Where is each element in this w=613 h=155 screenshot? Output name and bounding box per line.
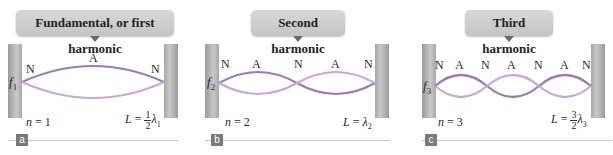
lambda-sub: 3	[583, 120, 587, 129]
n-label: n = 3	[438, 115, 463, 130]
standing-wave-2	[219, 68, 375, 98]
L-symbol: L	[125, 112, 132, 126]
n-value: = 3	[444, 115, 463, 129]
title-callout: Third harmonic	[465, 10, 553, 36]
length-equation: L = 32λ3	[551, 110, 587, 131]
frequency-label: f1	[9, 74, 17, 92]
panel-second-harmonic: Second harmonic N A N A N f2 n = 2 L = λ…	[205, 0, 410, 155]
freq-sub: 2	[211, 82, 216, 92]
n-value: = 2	[231, 115, 250, 129]
divider	[422, 140, 612, 141]
freq-sub: 3	[427, 86, 432, 96]
frequency-label: f2	[207, 74, 215, 92]
right-wall	[591, 44, 605, 118]
equals: =	[558, 112, 571, 126]
panel-badge: c	[425, 134, 437, 146]
panel-third-harmonic: Third harmonic N A N A N A N f3 n = 3 L …	[408, 0, 613, 155]
frequency-label: f3	[423, 78, 431, 96]
freq-sub: 1	[13, 82, 18, 92]
title-callout: Fundamental, or first harmonic	[16, 10, 174, 36]
n-label: n = 2	[225, 115, 250, 130]
length-equation: L = λ2	[343, 115, 372, 131]
standing-wave-3	[435, 71, 591, 101]
divider	[8, 140, 178, 141]
length-equation: L = 12λ1	[125, 110, 161, 131]
right-wall	[375, 44, 389, 118]
L-symbol: L	[551, 112, 558, 126]
divider	[205, 140, 390, 141]
n-label: n = 1	[26, 115, 51, 130]
standing-wave-1	[22, 62, 164, 102]
right-wall	[164, 44, 178, 118]
L-symbol: L	[343, 115, 350, 129]
n-value: = 1	[32, 115, 51, 129]
equals: =	[132, 112, 145, 126]
equals: =	[350, 115, 363, 129]
lambda-sub: 1	[157, 120, 161, 129]
panel-badge: b	[211, 134, 223, 146]
panel-badge: a	[16, 134, 28, 146]
lambda-sub: 2	[368, 122, 372, 131]
title-callout: Second harmonic	[251, 10, 345, 36]
panel-fundamental: Fundamental, or first harmonic N A N f1 …	[0, 0, 205, 155]
